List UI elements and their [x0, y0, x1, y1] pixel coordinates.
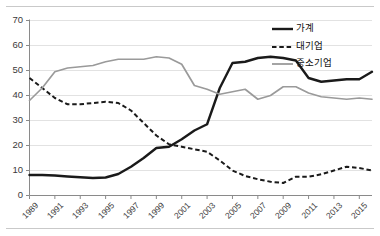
y-tick-label: 30: [5, 115, 23, 125]
y-tick-label: 60: [5, 40, 23, 50]
y-tick-label: 0: [5, 190, 23, 200]
legend-label-가계: 가계: [296, 22, 314, 33]
y-tick-label: 20: [5, 140, 23, 150]
chart-figure: 010203040506070 198919911993199519971999…: [0, 0, 380, 236]
y-tick-label: 10: [5, 165, 23, 175]
legend-label-대기업: 대기업: [296, 40, 323, 51]
y-tick-label: 50: [5, 65, 23, 75]
series-line-가계: [30, 57, 373, 178]
y-tick-label: 70: [5, 15, 23, 25]
y-tick-label: 40: [5, 90, 23, 100]
legend-swatch-가계: [272, 23, 294, 35]
legend-label-중소기업: 중소기업: [296, 57, 332, 68]
legend-swatch-중소기업: [272, 58, 294, 70]
legend-swatch-대기업: [272, 41, 294, 53]
series-line-대기업: [30, 78, 373, 183]
